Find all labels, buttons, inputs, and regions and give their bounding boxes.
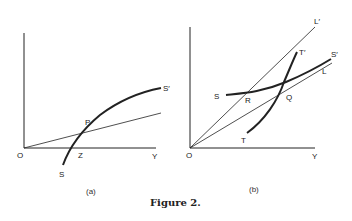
caption-b: (b): [249, 185, 259, 194]
label-t-b: T: [241, 136, 246, 145]
label-q-b: Q: [286, 93, 292, 102]
label-o-a: O: [17, 151, 23, 160]
label-r-b: R: [245, 96, 251, 105]
label-s-prime-a: S′: [163, 84, 170, 93]
figure-title: Figure 2.: [150, 197, 201, 208]
line-l: [190, 63, 332, 148]
figure-canvas: O Y P Z S S′ (a) O Y S R Q T T′ S′ L L′ …: [0, 0, 352, 221]
label-z-a: Z: [78, 151, 83, 160]
label-s-prime-b: S′: [331, 50, 338, 59]
label-s-a: S: [59, 170, 64, 179]
curve-ss-b: [226, 59, 331, 95]
label-y-a: Y: [152, 152, 158, 161]
label-t-prime-b: T′: [299, 48, 306, 57]
label-l-b: L: [322, 67, 327, 76]
label-p-a: P: [85, 118, 90, 127]
ray-a: [24, 113, 161, 148]
panel-b: O Y S R Q T T′ S′ L L′ (b): [186, 17, 338, 194]
label-s-b: S: [214, 92, 219, 101]
panel-a: O Y P Z S S′ (a): [17, 33, 170, 196]
label-y-b: Y: [312, 152, 318, 161]
caption-a: (a): [86, 187, 96, 196]
label-o-b: O: [186, 151, 192, 160]
label-l-prime-b: L′: [314, 17, 320, 26]
